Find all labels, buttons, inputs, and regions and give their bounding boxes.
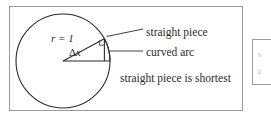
curved-arc-label: curved arc — [146, 47, 194, 59]
side-panel-line-2: c — [258, 66, 262, 76]
circle-diagram-svg — [0, 0, 271, 115]
side-panel-line-1: s — [258, 49, 262, 59]
delta-x-label: Δx — [69, 47, 81, 58]
adjacent-figure-frame: s c — [252, 39, 271, 85]
curved-arc-segment — [104, 39, 110, 61]
figure-canvas: r = 1 Δx straight piece curved arc strai… — [0, 0, 271, 115]
straight-piece-label: straight piece — [146, 27, 208, 39]
leader-line-straight-piece — [107, 29, 144, 37]
conclusion-label: straight piece is shortest — [120, 73, 231, 85]
radius-label: r = 1 — [51, 33, 74, 44]
delta-x-variable: x — [76, 46, 81, 58]
